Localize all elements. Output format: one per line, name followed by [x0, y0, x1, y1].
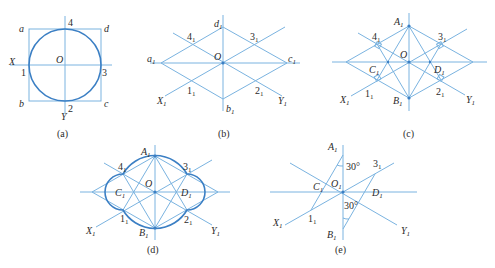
label-a: a — [19, 23, 24, 34]
isometric-ellipse-construction-figure: a d b c X Y O 1 2 3 4 (a) d1 b1 a1 c1 X1… — [0, 0, 495, 268]
label-point-2-1: 21 — [184, 214, 193, 227]
label-a1: A1 — [327, 141, 338, 154]
label-c1: C1 — [369, 64, 379, 77]
label-b1: B1 — [327, 229, 337, 242]
label-x1: X1 — [156, 95, 167, 108]
panel-d: A1 B1 C1 D1 X1 Y1 O 41 31 11 21 (d) — [80, 145, 230, 256]
center-point — [341, 190, 344, 193]
axis-x1 — [165, 27, 285, 96]
label-b1: B1 — [393, 95, 403, 108]
label-point-1-1: 11 — [187, 85, 196, 98]
label-y: Y — [61, 111, 68, 122]
label-b1: B1 — [139, 227, 149, 240]
caption-c: (c) — [403, 128, 414, 140]
label-b1: b1 — [226, 103, 235, 116]
label-point-1-1: 11 — [365, 88, 374, 101]
label-y1: Y1 — [211, 225, 220, 238]
label-c1: c1 — [288, 53, 296, 66]
caption-a: (a) — [57, 128, 68, 140]
label-point-1: 1 — [21, 67, 26, 78]
panel-e: A1 B1 C1 D1 X1 Y1 O1 31 11 30° 30° (e) — [270, 141, 417, 256]
angle-label-top: 30° — [346, 161, 360, 172]
point-b1 — [407, 96, 410, 99]
label-d1: d1 — [214, 18, 223, 31]
label-point-3-1: 31 — [438, 31, 447, 44]
label-y1: Y1 — [466, 94, 475, 107]
caption-b: (b) — [218, 128, 230, 140]
panel-c: A1 B1 C1 D1 X1 Y1 O 41 31 11 21 (c) — [332, 13, 487, 140]
center-point — [221, 61, 224, 64]
label-o: O — [56, 54, 63, 65]
angle-arc-top — [337, 165, 343, 166]
label-point-2-1: 21 — [255, 85, 264, 98]
label-x1: X1 — [272, 217, 283, 230]
axis-x1 — [96, 160, 212, 227]
point-a1 — [407, 24, 410, 27]
label-x1: X1 — [85, 225, 96, 238]
label-point-3-1: 31 — [250, 31, 259, 44]
label-d1: D1 — [180, 187, 192, 200]
panel-a: a d b c X Y O 1 2 3 4 (a) — [8, 16, 112, 140]
point-a1 — [153, 154, 156, 157]
label-d1: D1 — [371, 187, 383, 200]
label-point-4: 4 — [68, 17, 73, 28]
label-o: O — [214, 51, 221, 62]
label-point-2-1: 21 — [436, 86, 445, 99]
label-y1: Y1 — [278, 95, 287, 108]
angle-label-bottom: 30° — [344, 200, 358, 211]
label-o: O — [145, 178, 152, 189]
panel-b: d1 b1 a1 c1 X1 Y1 O 41 31 11 21 (b) — [147, 15, 300, 140]
label-c1: C1 — [115, 187, 125, 200]
label-o: O — [400, 49, 407, 60]
label-x: X — [8, 56, 16, 67]
center-point — [407, 60, 410, 63]
caption-d: (d) — [147, 244, 159, 256]
label-point-1-1: 11 — [120, 213, 129, 226]
label-x1: X1 — [339, 94, 350, 107]
angle-arc-bottom — [343, 218, 349, 219]
label-y1: Y1 — [401, 225, 410, 238]
label-point-3: 3 — [102, 67, 107, 78]
label-b: b — [19, 98, 24, 109]
point-c1 — [387, 61, 389, 63]
label-a1: a1 — [147, 53, 156, 66]
point-d1 — [429, 61, 431, 63]
caption-e: (e) — [335, 244, 346, 256]
label-o1: O1 — [331, 178, 342, 191]
label-point-2: 2 — [68, 103, 73, 114]
label-a1: A1 — [393, 16, 404, 29]
label-d: d — [104, 23, 110, 34]
label-point-3-1: 31 — [373, 158, 382, 171]
point-b1 — [153, 226, 156, 229]
label-point-1-1: 11 — [308, 213, 317, 226]
label-point-3-1: 31 — [183, 161, 192, 174]
label-c: c — [104, 98, 109, 109]
center-point — [153, 190, 156, 193]
